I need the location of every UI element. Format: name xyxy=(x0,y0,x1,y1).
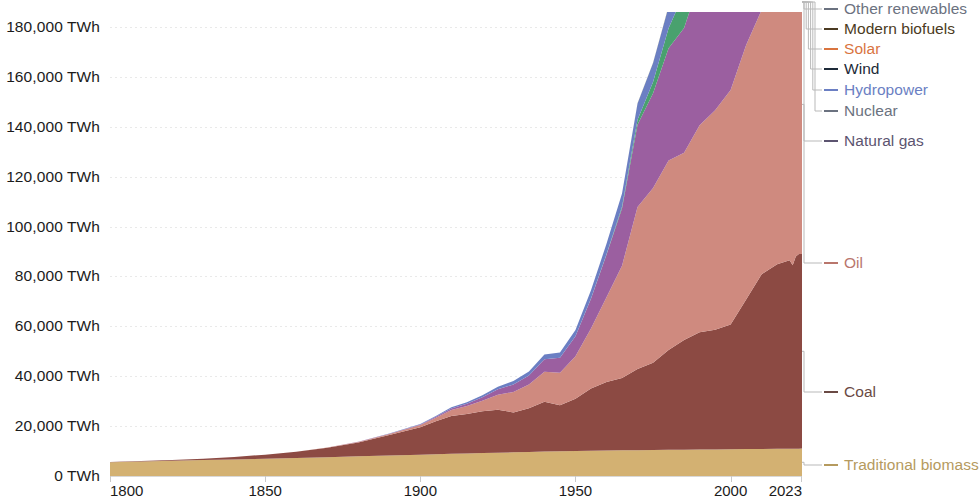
y-tick-label: 140,000 TWh xyxy=(0,119,108,135)
y-tick-label: 40,000 TWh xyxy=(0,368,108,384)
leader-line xyxy=(802,2,822,111)
y-tick-label: 120,000 TWh xyxy=(0,169,108,185)
y-axis: 0 TWh20,000 TWh40,000 TWh60,000 TWh80,00… xyxy=(0,0,108,502)
legend-dash-icon xyxy=(824,262,838,264)
legend-label: Modern biofuels xyxy=(844,21,955,37)
legend-item-modern-biofuels[interactable]: Modern biofuels xyxy=(824,20,955,38)
legend-dash-icon xyxy=(824,464,838,466)
legend-dash-icon xyxy=(824,28,838,30)
leader-line xyxy=(802,2,822,90)
x-tick-label: 2023 xyxy=(769,483,802,498)
y-tick-label: 100,000 TWh xyxy=(0,219,108,235)
leader-line xyxy=(802,104,822,263)
legend-dash-icon xyxy=(824,68,838,70)
legend-label: Solar xyxy=(844,41,880,57)
x-axis: 180018501900195020002023 xyxy=(110,476,802,502)
leader-line xyxy=(802,2,822,9)
leader-line xyxy=(802,2,822,29)
legend-item-other-renewables[interactable]: Other renewables xyxy=(824,0,967,18)
legend-dash-icon xyxy=(824,110,838,112)
leader-line xyxy=(802,2,822,141)
legend-item-nuclear[interactable]: Nuclear xyxy=(824,102,898,120)
legend-item-traditional-biomass[interactable]: Traditional biomass xyxy=(824,456,979,474)
legend-label: Natural gas xyxy=(844,133,924,149)
legend-dash-icon xyxy=(824,140,838,142)
y-tick-label: 80,000 TWh xyxy=(0,269,108,285)
x-tick-label: 2000 xyxy=(714,483,747,498)
legend-item-solar[interactable]: Solar xyxy=(824,40,880,58)
legend-label: Oil xyxy=(844,255,863,271)
y-tick-label: 0 TWh xyxy=(0,468,108,484)
legend-item-wind[interactable]: Wind xyxy=(824,60,880,78)
leader-line xyxy=(802,462,822,465)
legend-label: Wind xyxy=(844,61,880,77)
legend-label: Traditional biomass xyxy=(844,457,979,473)
leader-line xyxy=(802,351,822,392)
legend-dash-icon xyxy=(824,89,838,91)
legend-item-hydropower[interactable]: Hydropower xyxy=(824,81,928,99)
legend: Other renewablesModern biofuelsSolarWind… xyxy=(802,0,962,502)
legend-dash-icon xyxy=(824,48,838,50)
leader-line xyxy=(802,2,822,69)
y-tick-label: 60,000 TWh xyxy=(0,319,108,335)
legend-label: Hydropower xyxy=(844,82,928,98)
x-tick-label: 1950 xyxy=(559,483,592,498)
legend-label: Coal xyxy=(844,384,876,400)
plot-area xyxy=(110,12,802,476)
x-tick-label: 1850 xyxy=(248,483,281,498)
legend-dash-icon xyxy=(824,391,838,393)
x-tick-label: 1900 xyxy=(404,483,437,498)
legend-item-natural-gas[interactable]: Natural gas xyxy=(824,132,924,150)
y-tick-label: 20,000 TWh xyxy=(0,418,108,434)
y-tick-label: 180,000 TWh xyxy=(0,19,108,35)
y-tick-label: 160,000 TWh xyxy=(0,69,108,85)
x-tick-label: 1800 xyxy=(110,483,143,498)
legend-item-oil[interactable]: Oil xyxy=(824,254,863,272)
area-series-group xyxy=(110,12,802,476)
legend-dash-icon xyxy=(824,8,838,10)
legend-item-coal[interactable]: Coal xyxy=(824,383,876,401)
legend-label: Other renewables xyxy=(844,1,967,17)
x-axis-line xyxy=(110,476,802,477)
legend-label: Nuclear xyxy=(844,103,898,119)
